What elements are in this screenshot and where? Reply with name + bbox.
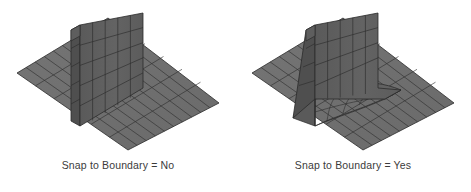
mesh-render-no	[0, 0, 236, 155]
caption-snap-to-boundary-no: Snap to Boundary = No	[0, 158, 236, 172]
mesh-viewport-no	[0, 0, 236, 155]
mesh-viewport-yes	[235, 0, 471, 155]
figure-snap-to-boundary-yes: Snap to Boundary = Yes	[235, 0, 471, 192]
mesh-render-yes	[235, 0, 471, 155]
caption-snap-to-boundary-yes: Snap to Boundary = Yes	[235, 158, 471, 172]
snap-to-boundary-comparison: Snap to Boundary = No	[0, 0, 471, 192]
figure-snap-to-boundary-no: Snap to Boundary = No	[0, 0, 236, 192]
